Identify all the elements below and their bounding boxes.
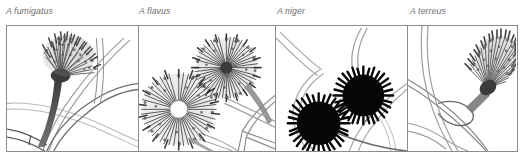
micrograph-image-a-flavus: [139, 26, 275, 151]
figure-panel-aspergillus-species: A fumigatus A flavus A niger A terreus: [0, 0, 527, 161]
micrograph-panel-a-flavus: [139, 26, 276, 151]
panel-label-row: A fumigatus A flavus A niger A terreus: [6, 0, 518, 25]
micrograph-panel-strip: [6, 25, 518, 152]
micrograph-panel-a-niger: [276, 26, 408, 151]
micrograph-panel-a-terreus: [408, 26, 516, 151]
panel-label-a-fumigatus: A fumigatus: [6, 5, 53, 17]
micrograph-image-a-niger: [276, 26, 407, 151]
micrograph-image-a-terreus: [408, 26, 516, 151]
panel-label-a-flavus: A flavus: [139, 5, 171, 17]
panel-label-a-terreus: A terreus: [410, 5, 446, 17]
micrograph-image-a-fumigatus: [7, 26, 138, 151]
micrograph-panel-a-fumigatus: [7, 26, 139, 151]
panel-label-a-niger: A niger: [277, 5, 305, 17]
